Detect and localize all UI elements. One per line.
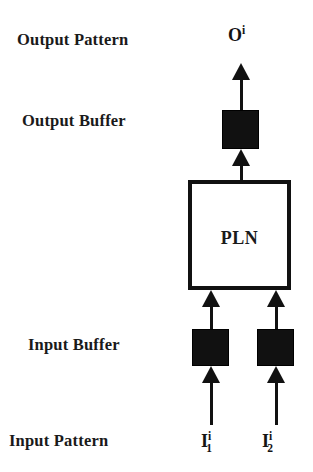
label-input-buffer: Input Buffer [28, 337, 120, 354]
arrow-head [232, 149, 250, 166]
label-output-pattern: Output Pattern [17, 32, 128, 49]
label-output-buffer: Output Buffer [22, 113, 126, 130]
input-signal-1-superscript: i [208, 430, 211, 442]
arrow-stem [240, 78, 243, 110]
arrow-stem [210, 381, 213, 425]
output-buffer-block [222, 110, 259, 149]
arrow-stem [275, 305, 278, 329]
arrow-head [202, 290, 220, 307]
label-input-signal-2: Ii2 [262, 432, 273, 450]
arrow-up-icon-pln-to-output-buffer [231, 149, 251, 180]
arrow-stem [210, 305, 213, 329]
diagram-canvas: Output Pattern Output Buffer Input Buffe… [0, 0, 313, 472]
arrow-head [267, 366, 285, 383]
input-signal-1-subscript: 1 [206, 442, 212, 454]
label-input-pattern: Input Pattern [9, 433, 108, 450]
arrow-stem [240, 164, 243, 180]
arrow-up-icon-input-buffer-1-to-pln [201, 290, 221, 329]
arrow-up-icon-input-buffer-2-to-pln [266, 290, 286, 329]
arrow-up-icon-output-signal [231, 63, 251, 110]
output-signal-superscript: i [242, 24, 245, 36]
arrow-head [267, 290, 285, 307]
label-input-signal-1: Ii1 [201, 432, 212, 450]
arrow-up-icon-input-1-to-buffer [201, 366, 221, 425]
pln-box: PLN [188, 180, 291, 290]
arrow-head [202, 366, 220, 383]
input-buffer-block-2 [257, 329, 294, 366]
arrow-stem [275, 381, 278, 425]
arrow-up-icon-input-2-to-buffer [266, 366, 286, 425]
input-signal-2-superscript: i [269, 430, 272, 442]
arrow-head [232, 63, 250, 80]
input-buffer-block-1 [192, 329, 229, 366]
input-signal-2-subscript: 2 [267, 442, 273, 454]
pln-box-label: PLN [192, 228, 287, 249]
output-signal-base: O [228, 25, 242, 45]
label-output-signal: Oi [228, 26, 245, 44]
